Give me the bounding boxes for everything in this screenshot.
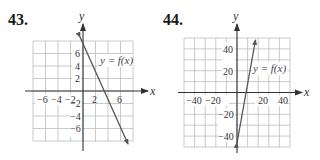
y-tick-44: 20 bbox=[223, 66, 233, 77]
function-label-43: y = f(x) bbox=[99, 54, 133, 67]
x-tick-43: 2 bbox=[92, 94, 97, 105]
x-tick-44: 40 bbox=[278, 95, 288, 106]
y-tick-43: 4 bbox=[75, 61, 80, 72]
function-line-44 bbox=[237, 40, 256, 143]
y-tick-43: 2 bbox=[75, 73, 80, 84]
y-tick-43: −6 bbox=[70, 123, 81, 134]
x-axis-label-44: x bbox=[303, 85, 310, 99]
x-tick-43: −6 bbox=[37, 94, 48, 105]
figure: 43. x y bbox=[0, 0, 320, 160]
y-tick-43: −4 bbox=[70, 111, 81, 122]
y-axis-label-44: y bbox=[232, 9, 239, 23]
graph-44: 44. bbox=[163, 9, 310, 153]
x-tick-43: 6 bbox=[117, 94, 122, 105]
y-tick-43: 6 bbox=[75, 48, 80, 59]
graph-43: 43. x y bbox=[8, 9, 156, 151]
y-tick-44: −40 bbox=[218, 131, 234, 142]
x-axis-label-43: x bbox=[149, 84, 156, 98]
x-tick-44: −20 bbox=[205, 95, 221, 106]
y-axis-label-43: y bbox=[78, 9, 85, 23]
y-tick-44: 40 bbox=[223, 44, 233, 55]
x-tick-43: −4 bbox=[51, 94, 62, 105]
y-tick-44: −20 bbox=[218, 109, 234, 120]
y-tick-43: −2 bbox=[70, 98, 81, 109]
problem-number-44: 44. bbox=[163, 11, 183, 28]
problem-number-43: 43. bbox=[8, 11, 28, 28]
x-tick-44: 20 bbox=[258, 95, 268, 106]
x-tick-44: −40 bbox=[186, 95, 202, 106]
function-label-44: y = f(x) bbox=[252, 62, 286, 75]
